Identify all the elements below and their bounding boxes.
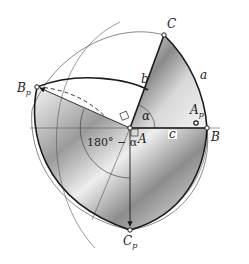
vertex-c: [162, 33, 166, 37]
spherical-triangle-diagram: C b a α Ap B A c Bp 180° − α Cp: [0, 0, 249, 264]
label-a-side: a: [200, 68, 207, 82]
label-c: C: [167, 17, 176, 31]
vertex-bp: [35, 85, 39, 89]
label-bp: Bp: [16, 81, 31, 97]
vertex-b: [205, 126, 209, 130]
label-supplement-angle: 180° − α: [87, 136, 138, 149]
label-alpha: α: [142, 109, 150, 123]
label-b-vertex: B: [210, 130, 220, 144]
label-b-side: b: [141, 72, 149, 86]
vertex-a: [128, 126, 132, 130]
vertex-cp: [128, 228, 132, 232]
label-a-vertex: A: [137, 132, 147, 146]
polar-arc-top: [37, 78, 148, 90]
label-cp: Cp: [123, 234, 137, 250]
label-c-side: c: [169, 127, 176, 141]
right-angle-mark-1: [120, 111, 129, 120]
vertex-ap: [194, 121, 198, 125]
